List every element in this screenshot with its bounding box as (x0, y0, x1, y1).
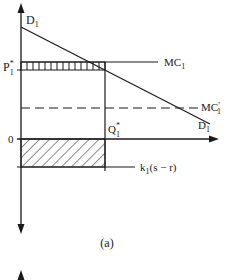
diagram-canvas: D1 P*1 MC1 MC′1 D1 Q*1 0 k1(s − r) (a) (0, 0, 227, 280)
figure-caption: (a) (100, 236, 113, 250)
subsidy-label: k1(s − r) (140, 161, 177, 176)
mc-label: MC1 (164, 56, 185, 71)
demand-label-bottom: D1 (198, 119, 210, 134)
price-label: P*1 (3, 59, 14, 77)
lower-hatched-region (21, 139, 105, 167)
demand-label-top: D1 (26, 13, 39, 29)
quantity-label: Q*1 (108, 121, 120, 139)
arrow-up-icon (18, 3, 25, 13)
arrow-right-icon (209, 136, 219, 143)
vertical-axis (18, 3, 25, 234)
origin-label: 0 (8, 133, 14, 145)
arrow-up-icon (18, 270, 25, 280)
next-figure-axis (18, 270, 25, 280)
demand-curve (21, 27, 210, 124)
mc-prime-label: MC′1 (201, 101, 221, 116)
arrow-down-icon (18, 224, 25, 234)
